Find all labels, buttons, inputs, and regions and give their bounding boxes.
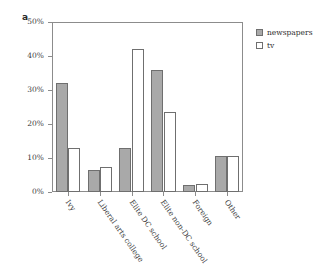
y-axis-tick-label: 50%: [14, 18, 44, 26]
legend-label: newspapers: [267, 29, 312, 37]
legend-item-tv: tv: [256, 40, 312, 51]
bar-newspapers-foreign: [183, 185, 195, 192]
legend-label: tv: [267, 42, 274, 50]
x-axis-tick-mark: [227, 192, 228, 196]
x-axis-tick-mark: [68, 192, 69, 196]
y-axis-tick-label: 30%: [14, 86, 44, 94]
y-axis-tick-label: 20%: [14, 120, 44, 128]
bar-tv-liberal-arts-college: [100, 167, 112, 193]
bar-tv-elite-non-dc-school: [164, 112, 176, 192]
y-axis-tick-mark: [48, 90, 52, 91]
y-axis-tick-label: 40%: [14, 52, 44, 60]
x-axis-tick-mark: [163, 192, 164, 196]
bar-newspapers-elite-non-dc-school: [151, 70, 163, 192]
bar-newspapers-elite-dc-school: [119, 148, 131, 192]
bar-newspapers-ivy: [56, 83, 68, 192]
x-axis-tick-mark: [132, 192, 133, 196]
y-axis-tick-mark: [48, 124, 52, 125]
x-axis-tick-mark: [100, 192, 101, 196]
y-axis-tick-label: 0%: [14, 188, 44, 196]
bar-tv-elite-dc-school: [132, 49, 144, 192]
chart-legend: newspaperstv: [256, 27, 312, 53]
bar-tv-ivy: [68, 148, 80, 192]
y-axis-tick-mark: [48, 158, 52, 159]
bar-newspapers-other: [215, 156, 227, 192]
x-axis-tick-mark: [195, 192, 196, 196]
bar-newspapers-liberal-arts-college: [88, 170, 100, 192]
bar-tv-foreign: [196, 184, 208, 193]
legend-swatch-icon: [256, 29, 263, 36]
y-axis-tick-mark: [48, 22, 52, 23]
y-axis-tick-mark: [48, 56, 52, 57]
bar-tv-other: [227, 156, 239, 192]
y-axis-tick-mark: [48, 192, 52, 193]
legend-item-newspapers: newspapers: [256, 27, 312, 38]
legend-swatch-icon: [256, 42, 263, 49]
y-axis-tick-label: 10%: [14, 154, 44, 162]
figure-panel-a: a 0%10%20%30%40%50% IvyLiberal arts coll…: [0, 0, 331, 280]
